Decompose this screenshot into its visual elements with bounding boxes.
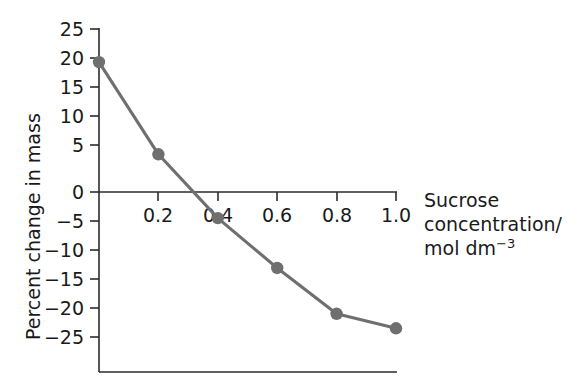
data-point	[390, 322, 402, 334]
chart-figure: 25 20 15 10 5 0 −5 −10 −15 −20 −25 0.2 0…	[0, 0, 567, 392]
data-series-group	[93, 56, 402, 335]
y-tick-label-20: 20	[60, 47, 84, 69]
x-axis-unit-exponent: −3	[496, 236, 515, 251]
y-tick-label-15: 15	[60, 76, 84, 98]
data-point	[152, 148, 164, 160]
line-chart-svg: 25 20 15 10 5 0 −5 −10 −15 −20 −25 0.2 0…	[0, 0, 567, 392]
y-tick-label-neg15: −15	[44, 268, 84, 290]
data-point	[212, 212, 224, 224]
y-tick-label-neg20: −20	[44, 297, 84, 319]
data-line	[99, 62, 396, 328]
x-axis-unit-base: mol dm	[424, 237, 496, 259]
y-tick-label-0: 0	[72, 181, 84, 203]
x-tick-label-0-8: 0.8	[322, 204, 352, 226]
x-axis-title-line1: Sucrose	[424, 189, 499, 211]
data-markers	[93, 56, 402, 335]
y-tick-label-neg10: −10	[44, 239, 84, 261]
y-tick-label-25: 25	[60, 18, 84, 40]
y-tick-label-10: 10	[60, 105, 84, 127]
x-axis-title-line2: concentration/	[424, 213, 563, 235]
y-tick-label-5: 5	[72, 134, 84, 156]
data-point	[271, 262, 283, 274]
y-tick-label-neg25: −25	[44, 326, 84, 348]
x-tick-label-0-2: 0.2	[143, 204, 173, 226]
data-point	[330, 308, 342, 320]
y-tick-label-neg5: −5	[56, 210, 84, 232]
x-tick-label-0-6: 0.6	[262, 204, 292, 226]
x-axis-title-line3: mol dm−3	[424, 236, 515, 259]
x-tick-label-1-0: 1.0	[381, 204, 411, 226]
data-point	[93, 56, 105, 68]
y-axis-title: Percent change in mass	[22, 113, 44, 340]
